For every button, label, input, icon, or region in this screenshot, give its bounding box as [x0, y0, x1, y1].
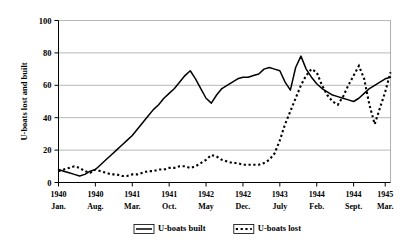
y-axis-ticks: [55, 21, 59, 183]
x-tick-label-month-0: Jan.: [51, 202, 65, 211]
x-tick-label-month-5: Dec.: [235, 202, 250, 211]
x-tick-label-year-5: 1942: [235, 190, 251, 199]
x-axis-ticks: [59, 183, 386, 187]
x-tick-label-month-9: Mar.: [377, 202, 393, 211]
gridlines: [59, 21, 391, 151]
y-tick-label-80: 80: [43, 48, 52, 58]
x-tick-label-year-4: 1942: [198, 190, 214, 199]
legend-label-u-boats-built: U-boats built: [158, 223, 206, 233]
x-axis-tick-labels: 1940Jan.1940Aug.1941Mar.1941Oct.1942May1…: [51, 190, 394, 211]
legend-label-u-boats-lost: U-boats lost: [258, 223, 301, 233]
x-tick-label-month-1: Aug.: [87, 202, 103, 211]
chart-legend: U-boats builtU-boats lost: [134, 223, 301, 233]
y-axis-title-text: U-boats lost and built: [19, 62, 29, 140]
x-tick-label-month-2: Mar.: [124, 202, 140, 211]
x-tick-label-year-9: 1945: [377, 190, 393, 199]
y-axis-tick-labels: 020406080100: [39, 16, 52, 188]
x-tick-label-year-8: 1944: [346, 190, 362, 199]
x-tick-label-month-4: May: [198, 202, 214, 211]
x-tick-label-year-1: 1940: [87, 190, 103, 199]
x-tick-label-month-7: Feb.: [309, 202, 324, 211]
x-tick-label-month-3: Oct.: [162, 202, 176, 211]
x-tick-label-month-6: July: [272, 202, 287, 211]
y-axis-title: U-boats lost and built: [19, 62, 29, 140]
chart-figure: 020406080100 1940Jan.1940Aug.1941Mar.194…: [0, 0, 420, 247]
data-series: [59, 56, 391, 176]
u-boats-line-chart: 020406080100 1940Jan.1940Aug.1941Mar.194…: [0, 0, 420, 247]
x-tick-label-month-8: Sept.: [345, 202, 362, 211]
y-tick-label-20: 20: [43, 145, 52, 155]
y-tick-label-100: 100: [39, 16, 52, 26]
x-tick-label-year-3: 1941: [161, 190, 177, 199]
x-tick-label-year-0: 1940: [51, 190, 67, 199]
y-tick-label-60: 60: [43, 80, 52, 90]
series-line-u-boats-built: [59, 56, 391, 176]
x-tick-label-year-6: 1943: [272, 190, 288, 199]
y-tick-label-40: 40: [43, 113, 52, 123]
x-tick-label-year-2: 1941: [124, 190, 140, 199]
series-line-u-boats-lost: [59, 66, 391, 176]
x-tick-label-year-7: 1944: [309, 190, 325, 199]
y-tick-label-0: 0: [47, 178, 51, 188]
